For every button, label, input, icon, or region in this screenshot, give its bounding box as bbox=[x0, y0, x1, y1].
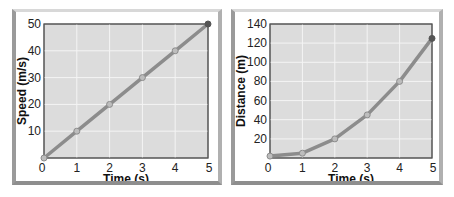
distance-xtick-1: 1 bbox=[299, 161, 306, 175]
distance-ytick-100: 100 bbox=[247, 55, 267, 69]
distance-chart-panel: 20 40 60 80 100 120 140 0 1 2 3 4 5 Time… bbox=[231, 9, 443, 185]
distance-ytick-40: 40 bbox=[254, 113, 268, 127]
speed-ytick-20: 20 bbox=[28, 97, 42, 111]
speed-x-axis-title: Time (s) bbox=[103, 172, 149, 181]
distance-xtick-0: 0 bbox=[265, 161, 272, 175]
speed-xtick-4: 4 bbox=[172, 161, 179, 175]
speed-xtick-0: 0 bbox=[39, 161, 46, 175]
distance-plot-area bbox=[270, 24, 432, 158]
distance-ytick-140: 140 bbox=[247, 17, 267, 31]
speed-point-2 bbox=[107, 101, 113, 107]
speed-point-5 bbox=[205, 21, 211, 27]
distance-ytick-60: 60 bbox=[254, 94, 268, 108]
distance-ytick-120: 120 bbox=[247, 36, 267, 50]
distance-point-4 bbox=[397, 78, 403, 84]
distance-y-axis-title: Distance (m) bbox=[235, 55, 248, 127]
distance-point-5 bbox=[429, 35, 435, 41]
speed-chart-panel: 10 20 30 40 50 0 1 2 3 4 5 Time (s) Spee… bbox=[12, 9, 222, 185]
distance-point-3 bbox=[364, 112, 370, 118]
speed-xtick-5: 5 bbox=[206, 161, 213, 175]
distance-point-2 bbox=[332, 136, 338, 142]
distance-ytick-20: 20 bbox=[254, 132, 268, 146]
speed-point-3 bbox=[139, 75, 145, 81]
speed-ytick-40: 40 bbox=[28, 44, 42, 58]
speed-point-4 bbox=[172, 48, 178, 54]
speed-point-1 bbox=[74, 128, 80, 134]
distance-chart: 20 40 60 80 100 120 140 0 1 2 3 4 5 Time… bbox=[235, 12, 439, 181]
distance-point-0 bbox=[267, 153, 273, 159]
distance-xtick-4: 4 bbox=[396, 161, 403, 175]
speed-chart: 10 20 30 40 50 0 1 2 3 4 5 Time (s) Spee… bbox=[16, 12, 218, 181]
speed-ytick-30: 30 bbox=[28, 71, 42, 85]
distance-point-1 bbox=[299, 150, 305, 156]
speed-y-axis-title: Speed (m/s) bbox=[16, 57, 29, 125]
distance-ytick-80: 80 bbox=[254, 74, 268, 88]
speed-xtick-1: 1 bbox=[73, 161, 80, 175]
speed-ytick-10: 10 bbox=[28, 124, 42, 138]
speed-ytick-50: 50 bbox=[28, 17, 42, 31]
distance-x-axis-title: Time (s) bbox=[328, 172, 374, 181]
distance-xtick-5: 5 bbox=[430, 161, 437, 175]
